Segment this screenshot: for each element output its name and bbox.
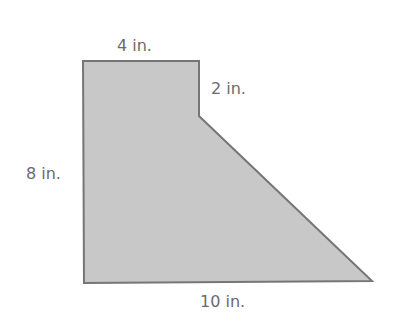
notch-side-label: 2 in. <box>211 81 246 97</box>
left-side-label: 8 in. <box>26 166 61 182</box>
bottom-side-label: 10 in. <box>200 294 245 310</box>
composite-shape <box>0 0 403 325</box>
top-side-label: 4 in. <box>117 38 152 54</box>
figure-canvas: 4 in. 2 in. 8 in. 10 in. <box>0 0 403 325</box>
